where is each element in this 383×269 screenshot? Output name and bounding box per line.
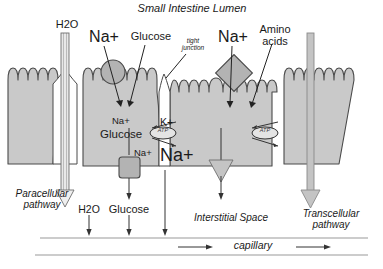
tight-junction-label: tight junction [174,38,212,52]
epithelial-cell-1 [8,68,58,164]
sodium-top-mid-label: Na+ [212,29,254,46]
capillary-vessel [35,238,368,255]
water-bottom-arrow [86,215,91,236]
atp-right-label: ATP [255,128,275,134]
atp-left-label: ATP [153,128,173,134]
h2o-top-label: H2O [50,19,84,31]
interstitial-space-label: Interstitial Space [178,213,284,224]
sodium-intracell-label: Na+ [112,116,142,126]
glucose-uniporter-icon [119,157,140,178]
h2o-bottom-label: H2O [72,204,106,215]
capillary-label: capillary [218,240,288,251]
sodium-big-label: Na+ [160,146,206,165]
sodium-top-left-label: Na+ [83,29,125,46]
transcellular-pathway-label: Transcellular pathway [288,209,374,230]
glucose-top-label: Glucose [122,31,180,43]
lumen-title: Small Intestine Lumen [127,3,257,15]
glucose-intracell-label: Glucose [100,128,158,140]
paracellular-pathway-label: Paracellular pathway [5,189,79,210]
diagram-canvas: Small Intestine Lumen H2O Na+ Glucose ti… [0,0,383,269]
glucose-bottom-arrow [126,215,131,236]
amino-acids-label: Amino acids [254,24,296,47]
glucose-bottom-label: Glucose [102,204,156,216]
sodium-paracellular-arrow [162,170,167,236]
na-glucose-cotransporter-icon [101,60,125,84]
epithelial-cell-4 [284,68,354,164]
glucose-efflux-arrow [126,178,131,200]
